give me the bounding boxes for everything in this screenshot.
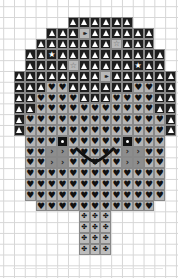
- heart-stitch-icon: ♥: [25, 190, 36, 201]
- triangle-stitch-icon: [90, 60, 101, 71]
- heart-stitch-icon: ♥: [57, 103, 68, 114]
- heart-stitch-icon: ♥: [154, 168, 165, 179]
- triangle-stitch-icon: [165, 71, 176, 82]
- heart-stitch-icon: ♥: [154, 114, 165, 125]
- heart-stitch-icon: ♥: [122, 168, 133, 179]
- heart-stitch-icon: ♥: [46, 179, 57, 190]
- triangle-stitch-icon: [144, 71, 155, 82]
- triangle-stitch-icon: [90, 49, 101, 60]
- heart-stitch-icon: ♥: [46, 190, 57, 201]
- triangle-stitch-icon: [79, 17, 90, 28]
- heart-stitch-icon: ♥: [36, 147, 47, 158]
- heart-stitch-icon: ♥: [122, 190, 133, 201]
- heart-stitch-icon: ♥: [133, 103, 144, 114]
- heart-stitch-icon: ♥: [90, 157, 101, 168]
- heart-stitch-icon: ♥: [57, 201, 68, 212]
- triangle-stitch-icon: [25, 60, 36, 71]
- heart-stitch-icon: ♥: [154, 136, 165, 147]
- heart-stitch-icon: ♥: [154, 179, 165, 190]
- heart-stitch-icon: ♥: [25, 114, 36, 125]
- triangle-stitch-icon: [133, 39, 144, 50]
- heart-stitch-icon: ♥: [57, 179, 68, 190]
- triangle-stitch-icon: [100, 17, 111, 28]
- flower-trunk-stitch-icon: ✤: [100, 222, 111, 233]
- heart-stitch-icon: ♥: [154, 147, 165, 158]
- heart-stitch-icon: ♥: [144, 82, 155, 93]
- heart-stitch-icon: ♥: [111, 103, 122, 114]
- heart-stitch-icon: ♥: [100, 190, 111, 201]
- heart-stitch-icon: ♥: [144, 147, 155, 158]
- heart-stitch-icon: ♥: [68, 168, 79, 179]
- heart-stitch-icon: ♥: [68, 147, 79, 158]
- heart-stitch-icon: ♥: [79, 136, 90, 147]
- heart-stitch-icon: ♥: [111, 93, 122, 104]
- triangle-stitch-icon: [111, 28, 122, 39]
- eye-stitch-icon: [122, 136, 133, 147]
- heart-stitch-icon: ♥: [68, 125, 79, 136]
- heart-stitch-icon: ♥: [90, 114, 101, 125]
- triangle-stitch-icon: [79, 93, 90, 104]
- triangle-stitch-icon: [165, 125, 176, 136]
- footer-divider: [13, 268, 163, 275]
- flower-trunk-stitch-icon: ✤: [90, 222, 101, 233]
- heart-stitch-icon: ♥: [144, 157, 155, 168]
- heart-stitch-icon: ♥: [122, 93, 133, 104]
- heart-stitch-icon: ♥: [68, 103, 79, 114]
- heart-stitch-icon: ♥: [133, 93, 144, 104]
- flower-trunk-stitch-icon: ✤: [79, 233, 90, 244]
- heart-stitch-icon: ♥: [133, 114, 144, 125]
- triangle-stitch-icon: [46, 28, 57, 39]
- triangle-stitch-icon: [25, 82, 36, 93]
- heart-stitch-icon: ♥: [154, 125, 165, 136]
- triangle-stitch-icon: [79, 71, 90, 82]
- heart-stitch-icon: ♥: [154, 190, 165, 201]
- heart-stitch-icon: ♥: [144, 201, 155, 212]
- triangle-stitch-icon: [90, 93, 101, 104]
- triangle-stitch-icon: [100, 82, 111, 93]
- triangle-stitch-icon: [111, 49, 122, 60]
- heart-stitch-icon: ♥: [68, 136, 79, 147]
- cheek-stitch-icon: ›: [133, 157, 144, 168]
- heart-stitch-icon: ♥: [46, 125, 57, 136]
- triangle-stitch-icon: [154, 60, 165, 71]
- triangle-stitch-icon: [90, 17, 101, 28]
- triangle-stitch-icon: [133, 71, 144, 82]
- heart-stitch-icon: ♥: [111, 190, 122, 201]
- flower-trunk-stitch-icon: ✤: [79, 244, 90, 255]
- triangle-stitch-icon: [46, 39, 57, 50]
- heart-stitch-icon: ♥: [36, 201, 47, 212]
- triangle-stitch-icon: [25, 49, 36, 60]
- heart-stitch-icon: ♥: [111, 114, 122, 125]
- heart-stitch-icon: ♥: [46, 201, 57, 212]
- flower-trunk-stitch-icon: ✤: [100, 211, 111, 222]
- heart-stitch-icon: ♥: [111, 157, 122, 168]
- triangle-stitch-icon: [100, 49, 111, 60]
- heart-stitch-icon: ♥: [133, 201, 144, 212]
- heart-stitch-icon: ♥: [133, 168, 144, 179]
- heart-stitch-icon: ♥: [90, 103, 101, 114]
- heart-stitch-icon: ♥: [57, 93, 68, 104]
- triangle-stitch-icon: [111, 82, 122, 93]
- heart-stitch-icon: ♥: [36, 114, 47, 125]
- triangle-stitch-icon: [36, 60, 47, 71]
- heart-stitch-icon: ♥: [36, 93, 47, 104]
- heart-stitch-icon: ♥: [100, 147, 111, 158]
- heart-stitch-icon: ♥: [68, 201, 79, 212]
- heart-stitch-icon: ♥: [133, 82, 144, 93]
- triangle-stitch-icon: [68, 71, 79, 82]
- heart-stitch-icon: ♥: [25, 157, 36, 168]
- heart-stitch-icon: ♥: [111, 147, 122, 158]
- triangle-stitch-icon: [154, 82, 165, 93]
- star-stitch-icon: ★: [133, 60, 144, 71]
- heart-stitch-icon: ♥: [25, 147, 36, 158]
- heart-stitch-icon: ♥: [144, 103, 155, 114]
- heart-stitch-icon: ♥: [79, 103, 90, 114]
- outline-star-stitch-icon: ☆: [111, 39, 122, 50]
- triangle-stitch-icon: [165, 93, 176, 104]
- cheek-stitch-icon: ›: [57, 157, 68, 168]
- triangle-stitch-icon: [14, 114, 25, 125]
- cheek-stitch-icon: ›: [46, 157, 57, 168]
- heart-stitch-icon: ♥: [36, 125, 47, 136]
- heart-stitch-icon: ♥: [122, 201, 133, 212]
- heart-stitch-icon: ♥: [46, 82, 57, 93]
